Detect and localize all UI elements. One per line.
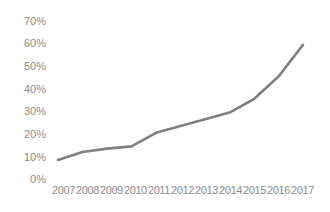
x-tick-label-2011: 2011 — [148, 184, 170, 196]
plot-area — [0, 0, 330, 212]
series-canvas — [0, 0, 330, 212]
x-tick-label-2010: 2010 — [124, 184, 147, 196]
x-tick-label-2009: 2009 — [100, 184, 123, 196]
x-tick-label-2017: 2017 — [291, 184, 314, 196]
x-tick-label-2013: 2013 — [195, 184, 218, 196]
x-tick-label-2007: 2007 — [52, 184, 75, 196]
x-tick-label-2008: 2008 — [76, 184, 99, 196]
x-tick-label-2015: 2015 — [243, 184, 266, 196]
data-series-line — [58, 45, 303, 160]
x-tick-label-2012: 2012 — [171, 184, 194, 196]
x-tick-label-2014: 2014 — [219, 184, 242, 196]
line-chart: 70% 60% 50% 40% 30% 20% 10% 0% 2007 2008… — [0, 0, 330, 212]
x-tick-label-2016: 2016 — [267, 184, 290, 196]
x-axis: 2007 2008 2009 2010 2011 2012 2013 2014 … — [52, 184, 314, 200]
